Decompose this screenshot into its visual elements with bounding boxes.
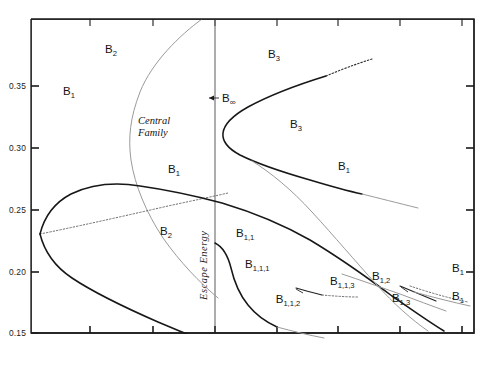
y-tick-label-1b: 0.30 bbox=[9, 143, 26, 153]
plot-svg: 0.115 0.120 0.125 0.130 0.135 0.140 0.14… bbox=[0, 0, 500, 373]
y-tick-label-0b: 0.35 bbox=[9, 81, 26, 91]
y-tick-label-3b: 0.20 bbox=[9, 267, 26, 277]
escape-energy-label: Escape Energy bbox=[198, 231, 209, 301]
y-tick-label-2b: 0.25 bbox=[9, 205, 26, 215]
figure-background bbox=[0, 0, 500, 373]
central-family-label-line1: Central bbox=[138, 115, 170, 126]
top-mask bbox=[0, 0, 500, 19]
y-tick-label-4b: 0.15 bbox=[9, 328, 26, 338]
right-mask bbox=[475, 0, 500, 373]
central-family-label-line2: Family bbox=[137, 127, 168, 138]
bifurcation-figure: 0.115 0.120 0.125 0.130 0.135 0.140 0.14… bbox=[0, 0, 500, 373]
left-mask bbox=[0, 0, 31, 373]
bottom-mask bbox=[0, 334, 500, 373]
